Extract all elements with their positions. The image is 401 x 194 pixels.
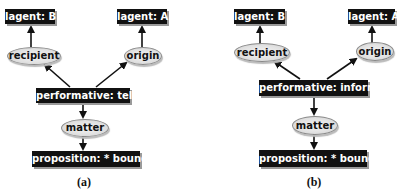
node-matter: matter <box>292 116 338 135</box>
node-agent-b: lagent: B <box>234 9 285 24</box>
node-recipient: recipient <box>234 43 290 62</box>
node-proposition: proposition: * bound <box>259 150 367 167</box>
node-performative: performative: inform <box>259 80 368 96</box>
node-origin: origin <box>356 42 394 61</box>
panel-b: lagent: B lagent: A recipient origin per… <box>0 0 401 194</box>
caption-b: (b) <box>300 175 328 190</box>
node-agent-a: lagent: A <box>348 9 395 24</box>
